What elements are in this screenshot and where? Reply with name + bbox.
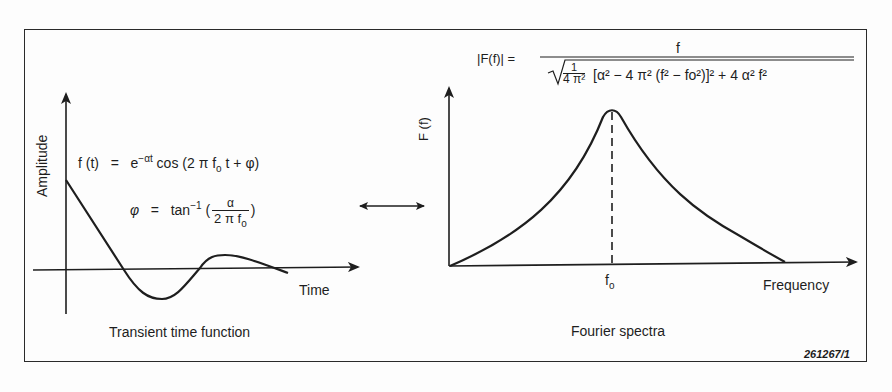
x-axis-label-frequency: Frequency (763, 277, 829, 293)
phi-close-paren: ) (251, 202, 256, 218)
ft-equation: f (t) = e−αt cos (2 π fo t + φ) (78, 155, 259, 171)
ft-exp-power: −αt (138, 153, 152, 164)
spectrum-curve (450, 110, 785, 266)
phi-numerator: α (212, 196, 249, 211)
right-x-axis (449, 262, 856, 266)
phi-fraction: α2 π fo (212, 196, 249, 226)
left-x-axis (33, 267, 358, 270)
x-axis-label-time: Time (299, 282, 330, 298)
phi-den-sub: o (241, 218, 247, 229)
y-axis-label-Ff: F (f) (416, 117, 431, 141)
ft-tail: t + φ) (222, 155, 259, 171)
Ff-denominator: [α² − 4 π² (f² − fo²)]² + 4 α² f² (593, 67, 767, 83)
Ff-lhs: |F(f)| = (477, 51, 515, 66)
Ff-numerator: f (676, 40, 680, 56)
f0-tick-label: fo (605, 272, 614, 288)
ft-lhs: f (t) (78, 155, 99, 171)
figure-number: 261267/1 (804, 348, 850, 360)
phi-tan: tan (171, 202, 190, 218)
phi-den-text: 2 π f (214, 211, 241, 226)
ft-cos-term: cos (2 π f (153, 155, 216, 171)
phi-symbol: φ (130, 202, 139, 218)
ft-equals: = (111, 155, 119, 171)
phi-tan-power: −1 (190, 200, 201, 211)
right-caption: Fourier spectra (571, 323, 665, 339)
f0-label-sub: o (609, 280, 615, 291)
phi-equals: = (151, 202, 159, 218)
phi-equation: φ = tan−1 (α2 π fo) (130, 196, 255, 226)
left-caption: Transient time function (109, 324, 250, 340)
inner-frac-den: 4 π² (563, 74, 585, 85)
phi-denominator: 2 π fo (212, 211, 249, 226)
phi-open-paren: ( (205, 202, 210, 218)
Ff-inner-fraction: 1 4 π² (563, 62, 585, 85)
y-axis-label-amplitude: Amplitude (34, 135, 50, 197)
